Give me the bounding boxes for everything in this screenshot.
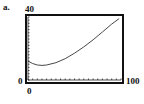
axis-ticks bbox=[28, 17, 121, 80]
plot-frame bbox=[26, 15, 123, 83]
chart-plot bbox=[0, 0, 144, 104]
data-curve bbox=[28, 19, 119, 66]
